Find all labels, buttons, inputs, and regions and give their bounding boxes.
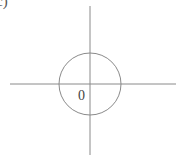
origin-label: 0 xyxy=(78,88,85,104)
diagram-canvas xyxy=(0,0,179,157)
